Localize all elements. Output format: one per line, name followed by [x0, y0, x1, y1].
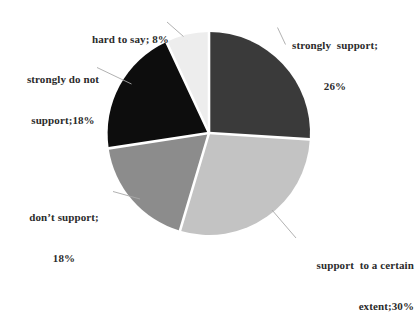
- pie-label-dont-support: don’t support; 18%: [12, 184, 116, 292]
- leader-line-support-to-a-certain-extent: [272, 210, 296, 238]
- pie-label-support-to-a-certain-extent-line2: extent;30%: [300, 300, 414, 314]
- pie-label-strongly-do-not-support-line1: strongly do not: [8, 73, 118, 87]
- pie-label-dont-support-line1: don’t support;: [12, 211, 116, 225]
- pie-label-hard-to-say: hard to say; 8%: [92, 6, 210, 74]
- pie-label-dont-support-line2: 18%: [12, 252, 116, 266]
- pie-label-hard-to-say-line1: hard to say; 8%: [92, 33, 210, 47]
- pie-label-strongly-support-line1: strongly support;: [283, 39, 387, 53]
- pie-label-support-to-a-certain-extent-line1: support to a certain: [300, 259, 414, 273]
- pie-label-strongly-support-line2: 26%: [283, 80, 387, 94]
- pie-label-strongly-support: strongly support; 26%: [283, 12, 387, 120]
- pie-label-support-to-a-certain-extent: support to a certain extent;30%: [300, 232, 414, 316]
- pie-label-strongly-do-not-support-line2: support;18%: [8, 114, 118, 128]
